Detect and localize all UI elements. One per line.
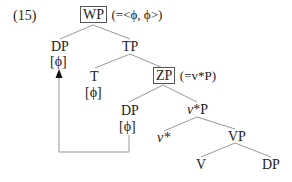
node-dp-obj: DP [262,158,280,172]
node-dp-spec-feature: [ϕ] [50,55,67,69]
branch-wp-dp [60,25,93,39]
example-number: (15) [13,9,36,23]
branch-tp-t [95,54,130,68]
node-zp-label: ZP [153,67,175,84]
branch-vp-v [201,143,235,157]
branch-vp-dp [235,143,271,157]
node-v: V [196,158,206,172]
node-dp-mid: DP [121,104,139,118]
node-wp: WP (=<ϕ, ϕ>) [80,8,162,22]
node-wp-annotation: (=<ϕ, ϕ>) [112,7,163,22]
arrowhead-icon [56,69,63,78]
branch-vstarp-vstar [164,117,197,131]
tree-branches [0,0,292,182]
node-dp-mid-feature: [ϕ] [119,120,136,134]
node-vp: VP [228,130,246,144]
branch-tp-zp [130,54,163,68]
node-t: T [90,70,99,84]
node-tp: TP [122,40,138,54]
node-vstar-p: v*P [187,103,208,117]
node-dp-spec: DP [51,40,69,54]
node-zp: ZP (=v*P) [153,69,216,83]
branch-zp-vstarp [163,85,197,102]
node-vstar: v* [157,131,170,145]
branch-zp-dp [129,85,163,102]
branch-wp-tp [93,25,130,39]
node-wp-label: WP [80,6,107,23]
node-zp-annotation: (=v*P) [180,68,216,83]
node-t-feature: [ϕ] [85,86,102,100]
branch-vstarp-vp [197,117,235,129]
